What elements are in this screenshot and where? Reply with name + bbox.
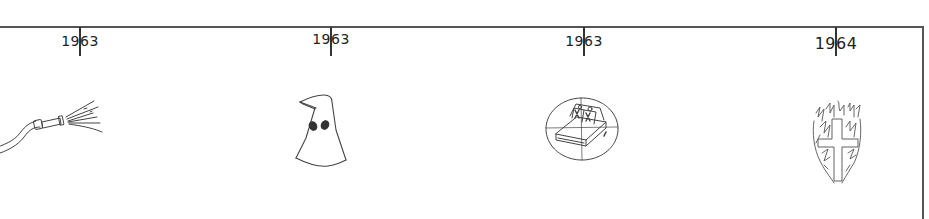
timeline-event: 1963 <box>20 27 140 217</box>
fire-hose-icon <box>0 87 110 167</box>
event-year: 1963 <box>20 33 140 49</box>
bombed-church-target-icon <box>544 96 620 162</box>
timeline-event: 1964 <box>776 27 896 217</box>
timeline-event: 1963 <box>524 27 644 217</box>
timeline: 1963 <box>0 0 929 219</box>
timeline-event: 1963 <box>271 27 391 217</box>
event-year: 1963 <box>524 33 644 49</box>
timeline-right-border <box>922 26 924 219</box>
burning-cross-icon <box>810 99 864 185</box>
event-year: 1964 <box>776 34 896 53</box>
event-year: 1963 <box>271 31 391 47</box>
hooded-figure-icon <box>294 94 354 170</box>
